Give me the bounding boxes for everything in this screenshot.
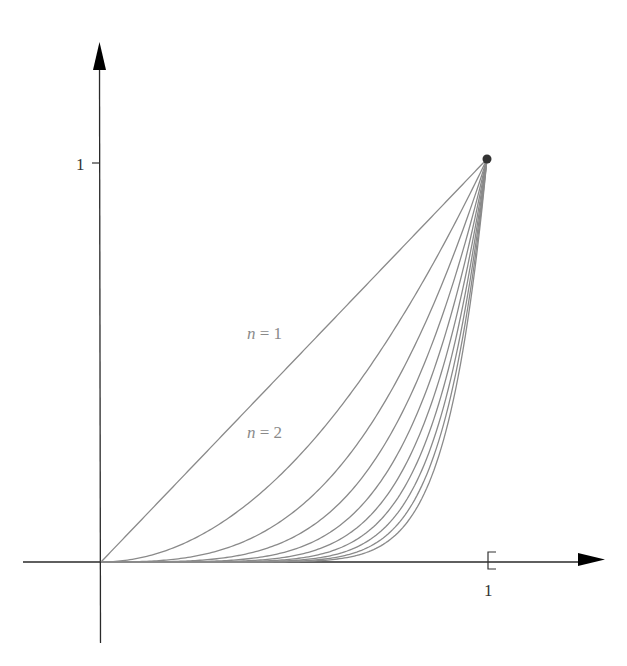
label-n-2-val: 2 (274, 423, 283, 442)
endpoint-dot (483, 155, 492, 164)
label-n-2-var: n (247, 423, 256, 442)
x-axis-arrow-icon (578, 553, 605, 566)
label-n-2-eq: = (256, 423, 274, 442)
label-n-1-val: 1 (274, 324, 283, 343)
curve-n-1 (101, 159, 487, 562)
x-tick-label-1: 1 (484, 581, 493, 600)
y-axis-arrow-icon (93, 42, 106, 70)
label-n-1-eq: = (256, 324, 274, 343)
curves-group (101, 159, 487, 562)
label-n-1: n = 1 (247, 324, 282, 343)
y-tick-label-1: 1 (76, 155, 85, 174)
x-bracket-1 (488, 552, 496, 569)
chart: 1 1 n = 1 n = 2 (0, 0, 627, 666)
y-axis (100, 66, 101, 643)
label-n-2: n = 2 (247, 423, 282, 442)
label-n-1-var: n (247, 324, 256, 343)
